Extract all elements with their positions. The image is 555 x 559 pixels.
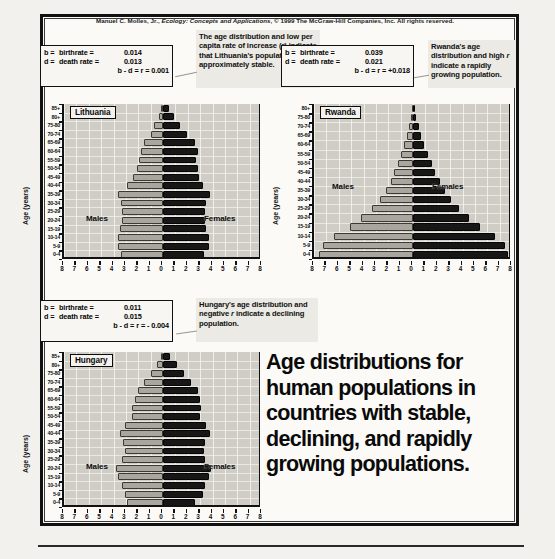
x-axis-tick [349,261,350,265]
rwanda-stats-box: b = birthrate = 0.039 d = death rate = 0… [281,45,414,87]
x-axis-tick-label: 7 [319,265,329,272]
x-axis-tick-label: 5 [468,265,478,272]
bar-male [141,148,163,155]
caption-line-1: Age distributions for [266,350,516,376]
x-axis-tick [99,261,100,265]
x-axis-tick [99,509,100,513]
slide-root: Manuel C. Molles, Jr., Ecology: Concepts… [0,0,555,559]
age-tick-label: 20-24 [268,213,310,222]
bar-female [163,379,191,386]
age-tick-label: 10-14 [268,232,310,241]
age-tick-label: 20-24 [18,216,60,225]
bar-male [132,405,163,412]
age-tick-label: 40-44 [18,429,60,438]
x-axis-tick [173,509,174,513]
x-axis-tick [337,261,338,265]
x-axis-tick [235,261,236,265]
bar-male [125,448,163,455]
x-axis-tick [362,261,363,265]
age-tick-label: 75-80 [268,113,310,122]
bar-male [151,131,163,138]
bar-female [413,151,428,158]
x-axis-tick [324,261,325,265]
bar-female [163,174,199,181]
x-axis-tick [386,261,387,265]
females-label: Females [432,182,463,191]
x-axis-tick-label: 3 [119,265,129,272]
x-axis-tick-label: 5 [94,265,104,272]
bar-female [413,114,416,121]
age-tick-label: 80+ [268,104,310,113]
age-tick-label: 35-39 [18,438,60,447]
bottom-rule [38,545,524,547]
x-axis-tick [62,509,63,513]
bar-female [163,217,205,224]
x-axis-tick [211,261,212,265]
x-axis-tick [161,509,162,513]
rwanda-note-text: Rwanda's age distribution and high r ind… [431,42,509,79]
age-tick-label: 80+ [18,113,60,122]
age-tick-label: 25-29 [18,207,60,216]
bar-male [391,178,413,185]
x-axis-tick-label: 6 [332,265,342,272]
bar-male [138,387,163,394]
x-axis-tick-label: 1 [168,513,178,520]
x-axis-tick [223,509,224,513]
bar-female [413,242,505,249]
age-tick-label: 50-54 [18,412,60,421]
bar-female [163,456,205,463]
x-axis-tick [248,509,249,513]
bar-female [163,353,170,360]
age-tick-label: 0-4 [18,250,60,259]
x-axis-tick [485,261,486,265]
bar-female [163,491,203,498]
x-axis-tick [423,261,424,265]
x-axis-tick-label: 1 [168,265,178,272]
x-axis-tick-label: 1 [418,265,428,272]
bar-male [122,482,163,489]
bar-male [125,422,163,429]
x-axis-tick-label: 5 [94,513,104,520]
hungary-d-label: d = [44,312,57,321]
x-axis-tick [260,261,261,265]
x-axis-tick-label: 8 [57,513,67,520]
x-axis-tick [161,261,162,265]
x-axis-tick [374,261,375,265]
age-tick-label: 80+ [18,361,60,370]
bar-female [163,251,204,258]
x-axis-tick-label: 7 [493,265,503,272]
age-tick-label: 45-49 [18,421,60,430]
bar-female [163,482,205,489]
x-axis-tick-label: 3 [119,513,129,520]
age-tick-label: 15-19 [268,222,310,231]
x-axis-tick-label: 5 [218,265,228,272]
x-axis-tick-label: 2 [131,513,141,520]
chart-lithuania: Age (years)85+80+75-8070-7465-6960-6455-… [14,104,264,275]
x-axis-tick-label: 2 [431,265,441,272]
age-tick-label: 5-9 [268,241,310,250]
credit-prefix: Manuel C. Molles, Jr., [96,17,161,24]
age-tick-label: 10-14 [18,233,60,242]
x-axis-tick-label: 4 [206,265,216,272]
females-label: Females [204,214,235,223]
bar-female [163,413,200,420]
bar-female [163,182,203,189]
age-tick-label: 50-54 [268,159,310,168]
bar-male [133,174,163,181]
lithuania-stats-box: b = birthrate = 0.014 d = death rate = 0… [40,45,173,87]
x-axis-tick-label: 1 [144,513,154,520]
males-label: Males [86,214,108,223]
x-axis-tick [448,261,449,265]
bar-male [350,223,413,230]
bar-male [118,191,163,198]
age-tick-labels: 80+75-8070-7465-6960-6455-5950-5445-4940… [268,104,310,259]
age-tick-label: 75-80 [18,369,60,378]
x-axis-tick-label: 8 [505,265,515,272]
x-axis-tick-label: 1 [394,265,404,272]
country-label-rwanda: Rwanda [320,106,361,119]
bar-male [122,217,163,224]
hungary-d-name: death rate = [59,312,122,321]
bar-female [413,105,415,112]
bar-male [122,456,163,463]
bar-male [121,200,163,207]
